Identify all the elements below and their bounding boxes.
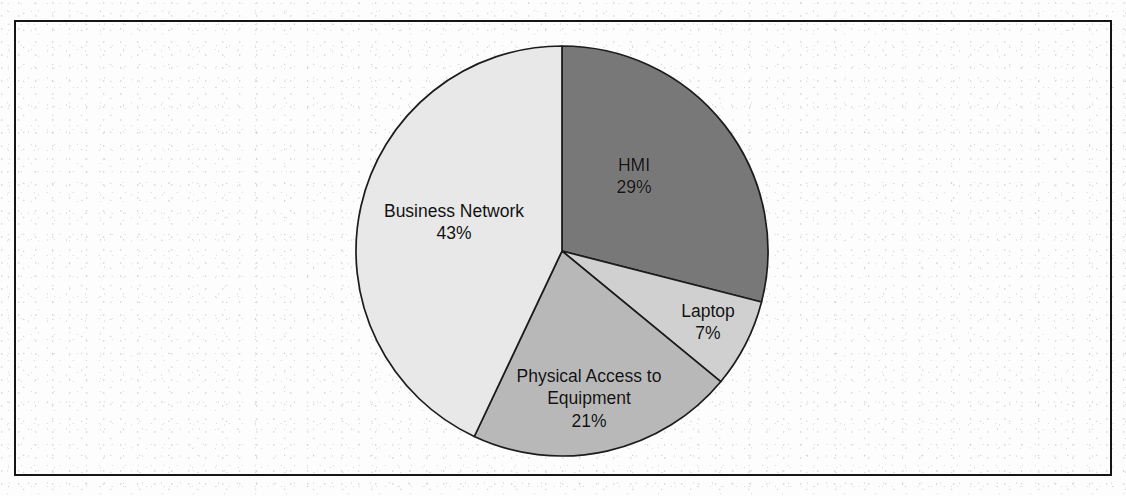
pie-slice-label: Laptop7% [681,300,735,345]
pie-slice-label: Physical Access toEquipment21% [517,365,662,432]
pie-chart: HMI29%Laptop7%Physical Access toEquipmen… [0,0,1126,496]
pie-slice-label-name: HMI [616,154,651,176]
pie-slice-label-value: 7% [681,322,735,344]
pie-slice-label: HMI29% [616,154,651,199]
pie-slice-label-value: 43% [384,222,524,244]
pie-slice-label-name-line2: Equipment [517,388,662,410]
pie-slice-label-name: Laptop [681,300,735,322]
pie-slice-label: Business Network43% [384,200,524,245]
pie-slice-label-value: 29% [616,176,651,198]
pie-slice-label-value: 21% [517,410,662,432]
pie-slice-label-name: Physical Access to [517,365,662,387]
pie-slice-label-name: Business Network [384,200,524,222]
